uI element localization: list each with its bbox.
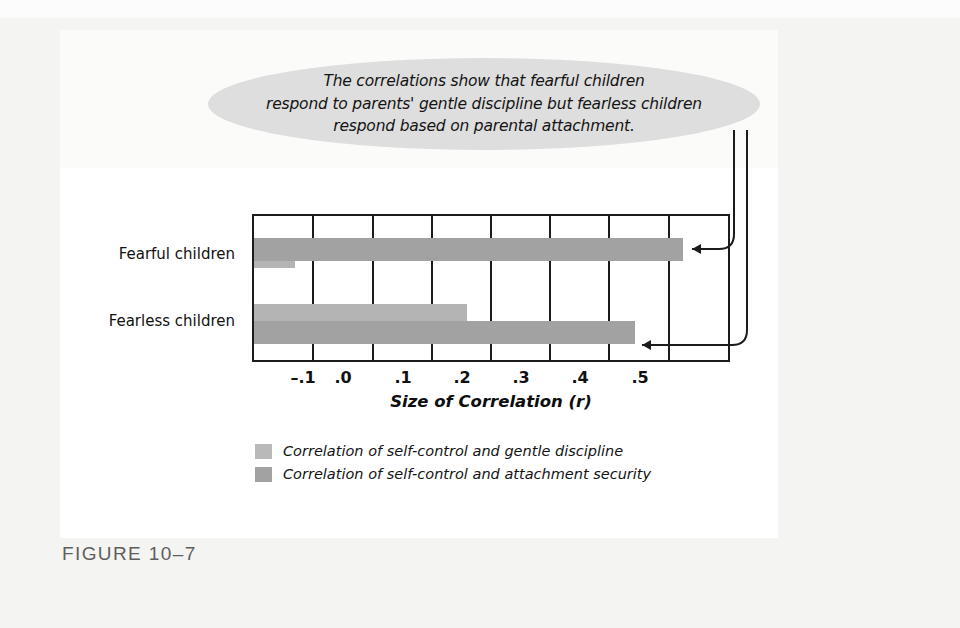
chart-legend: Correlation of self-control and gentle d…	[255, 440, 651, 486]
tick-label: .3	[501, 368, 541, 387]
legend-swatch-gentle	[255, 444, 272, 459]
tick-label: .1	[383, 368, 423, 387]
category-label-fearless: Fearless children	[40, 312, 235, 330]
category-label-fearful: Fearful children	[40, 245, 235, 263]
bar-fearless-attachment	[254, 321, 635, 344]
tick-label: –.1	[283, 368, 323, 387]
figure-caption: FIGURE 10–7	[62, 543, 197, 565]
legend-item-attachment: Correlation of self-control and attachme…	[255, 463, 651, 485]
tick-label: .0	[323, 368, 363, 387]
category-label-text: Fearless children	[109, 312, 235, 330]
figure-chart: Fearful children Fearless children –.1 .…	[0, 0, 960, 628]
x-axis-title: Size of Correlation (r)	[252, 392, 730, 411]
legend-item-gentle: Correlation of self-control and gentle d…	[255, 440, 651, 462]
plot-area	[252, 214, 730, 362]
tick-label: .5	[620, 368, 660, 387]
tick-label: .2	[442, 368, 482, 387]
legend-swatch-attachment	[255, 467, 272, 482]
legend-label-gentle: Correlation of self-control and gentle d…	[283, 443, 623, 459]
bar-fearful-attachment	[254, 238, 683, 261]
category-label-text: Fearful children	[119, 245, 235, 263]
tick-label: .4	[560, 368, 600, 387]
legend-label-attachment: Correlation of self-control and attachme…	[283, 466, 651, 482]
